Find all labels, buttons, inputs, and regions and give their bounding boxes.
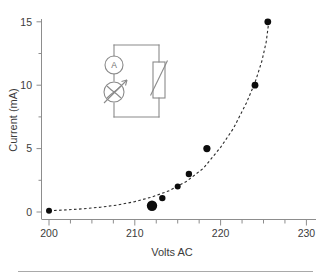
x-ticklabel-210: 210	[126, 227, 144, 239]
x-axis-title: Volts AC	[151, 246, 193, 258]
y-ticklabel-0: 0	[26, 206, 32, 218]
y-axis-title: Current (mA)	[7, 88, 19, 152]
data-point-2	[159, 195, 165, 201]
y-ticklabel-15: 15	[20, 16, 32, 28]
data-point-7	[264, 18, 271, 25]
data-point-1-emphasized	[147, 201, 157, 211]
data-point-0	[46, 208, 52, 214]
scatter-plot-chart: 0 5 10 15 200 210 220 230	[0, 0, 330, 279]
varistor-body-icon	[153, 62, 165, 98]
y-axis: 0 5 10 15	[20, 16, 41, 220]
x-ticklabel-200: 200	[40, 227, 58, 239]
x-axis: 200 210 220 230	[40, 220, 316, 240]
data-point-5	[203, 145, 210, 152]
figure-panel: 0 5 10 15 200 210 220 230	[0, 0, 330, 279]
y-ticklabel-5: 5	[26, 142, 32, 154]
x-ticklabel-220: 220	[212, 227, 230, 239]
data-point-3	[175, 184, 181, 190]
ammeter-label: A	[111, 60, 117, 70]
x-ticklabel-230: 230	[298, 227, 316, 239]
inset-circuit-diagram: A	[104, 45, 168, 117]
data-point-6	[252, 82, 259, 89]
y-ticklabel-10: 10	[20, 79, 32, 91]
data-point-4	[186, 171, 192, 177]
